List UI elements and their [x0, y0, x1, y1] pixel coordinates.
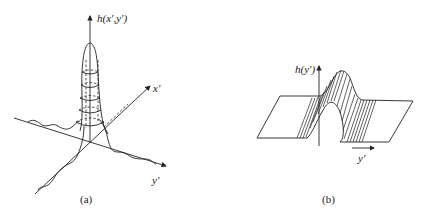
ridge-back-profile [320, 71, 362, 100]
x-axis-hidden [104, 104, 128, 127]
caption-a: (a) [80, 193, 93, 206]
y-axis-label-b: y′ [357, 152, 366, 164]
y-axis-label: y′ [151, 174, 160, 186]
caption-b: (b) [322, 193, 335, 206]
side-lobe-right [106, 131, 156, 164]
side-lobe-front [38, 126, 84, 190]
h-axis-label: h(x′,y′) [97, 12, 127, 25]
x-axis-label: x′ [152, 82, 161, 94]
figure-canvas: h(x′,y′) y′ x′ [0, 0, 422, 217]
h-axis-label-b: h(y′) [295, 63, 315, 76]
panel-b: h(y′) y′ (b) [257, 63, 413, 206]
panel-a: h(x′,y′) y′ x′ [14, 12, 166, 206]
x-axis [35, 86, 150, 194]
